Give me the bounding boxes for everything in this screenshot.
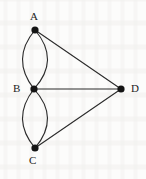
edge-b-c-right: [22, 89, 35, 148]
vertex-b-node: [30, 85, 37, 92]
vertex-c-node: [31, 144, 38, 151]
graph-figure: ABCD: [0, 0, 146, 179]
vertex-b-label: B: [13, 83, 21, 94]
vertex-d-label: D: [131, 83, 139, 94]
vertex-a-node: [31, 26, 38, 33]
edge-b-c-left: [34, 89, 48, 148]
graph-canvas: [0, 0, 146, 179]
edge-a-b-right: [22, 30, 35, 89]
vertex-d-node: [117, 85, 124, 92]
edge-a-b-left: [34, 30, 48, 89]
vertex-c-label: C: [29, 155, 37, 166]
vertex-a-label: A: [30, 11, 38, 22]
